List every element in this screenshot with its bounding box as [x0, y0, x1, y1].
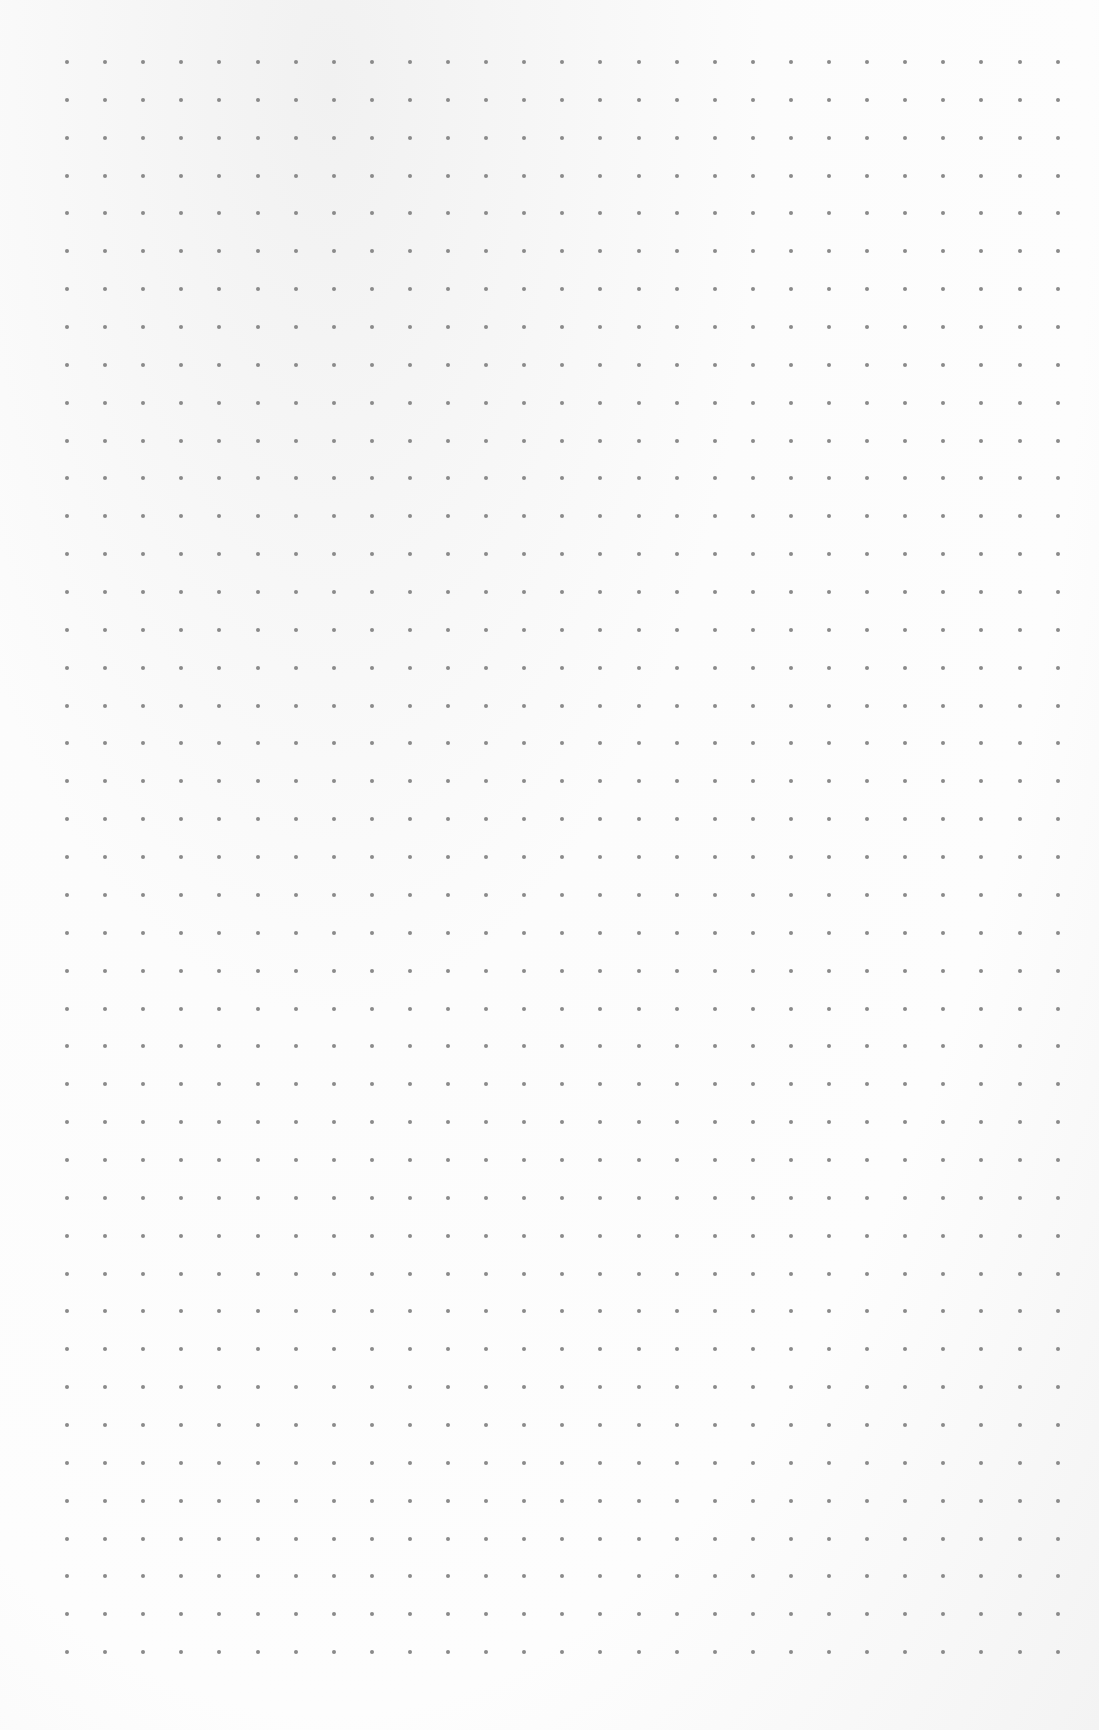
grid-dot — [903, 1007, 907, 1011]
grid-dot — [789, 1574, 793, 1578]
grid-dot — [903, 704, 907, 708]
grid-dot — [560, 174, 564, 178]
grid-dot — [522, 1082, 526, 1086]
grid-dot — [751, 1120, 755, 1124]
grid-dot — [332, 476, 336, 480]
grid-dot — [294, 1537, 298, 1541]
grid-dot — [103, 325, 107, 329]
grid-dot — [141, 628, 145, 632]
grid-dot — [675, 1196, 679, 1200]
grid-dot — [65, 174, 69, 178]
grid-dot — [751, 741, 755, 745]
grid-dot — [217, 476, 221, 480]
grid-dot — [751, 136, 755, 140]
grid-dot — [446, 514, 450, 518]
grid-dot — [827, 514, 831, 518]
grid-dot — [675, 363, 679, 367]
grid-dot — [675, 1461, 679, 1465]
grid-dot — [941, 287, 945, 291]
grid-dot — [751, 174, 755, 178]
grid-dot — [751, 1044, 755, 1048]
grid-dot — [446, 287, 450, 291]
grid-dot — [294, 98, 298, 102]
grid-dot — [637, 174, 641, 178]
grid-dot — [294, 1650, 298, 1654]
grid-dot — [522, 741, 526, 745]
grid-dot — [941, 1272, 945, 1276]
grid-dot — [370, 817, 374, 821]
grid-dot — [446, 1347, 450, 1351]
grid-dot — [941, 1158, 945, 1162]
grid-dot — [789, 401, 793, 405]
grid-dot — [1018, 1537, 1022, 1541]
grid-dot — [941, 1234, 945, 1238]
grid-dot — [332, 1044, 336, 1048]
grid-dot — [217, 628, 221, 632]
grid-dot — [141, 1537, 145, 1541]
grid-dot — [1056, 287, 1060, 291]
grid-dot — [484, 1385, 488, 1389]
grid-dot — [713, 1423, 717, 1427]
grid-dot — [637, 1499, 641, 1503]
grid-dot — [637, 817, 641, 821]
grid-dot — [903, 514, 907, 518]
grid-dot — [103, 249, 107, 253]
grid-dot — [179, 1574, 183, 1578]
grid-dot — [598, 514, 602, 518]
grid-dot — [713, 98, 717, 102]
grid-dot — [979, 590, 983, 594]
grid-dot — [179, 666, 183, 670]
grid-dot — [751, 666, 755, 670]
grid-dot — [865, 249, 869, 253]
grid-dot — [675, 439, 679, 443]
grid-dot — [65, 60, 69, 64]
grid-dot — [675, 779, 679, 783]
grid-dot — [484, 1272, 488, 1276]
grid-dot — [637, 363, 641, 367]
grid-dot — [1056, 1272, 1060, 1276]
grid-dot — [370, 211, 374, 215]
grid-dot — [789, 1158, 793, 1162]
grid-dot — [979, 1347, 983, 1351]
grid-dot — [179, 704, 183, 708]
grid-dot — [179, 1120, 183, 1124]
grid-dot — [294, 1158, 298, 1162]
grid-dot — [903, 363, 907, 367]
grid-dot — [560, 704, 564, 708]
grid-dot — [941, 969, 945, 973]
grid-dot — [865, 741, 869, 745]
grid-dot — [522, 855, 526, 859]
grid-dot — [408, 931, 412, 935]
grid-dot — [217, 1120, 221, 1124]
grid-dot — [522, 704, 526, 708]
grid-dot — [484, 1650, 488, 1654]
grid-dot — [789, 1385, 793, 1389]
grid-dot — [446, 1082, 450, 1086]
grid-dot — [217, 1234, 221, 1238]
grid-dot — [789, 931, 793, 935]
grid-dot — [637, 1196, 641, 1200]
grid-dot — [217, 1461, 221, 1465]
grid-dot — [370, 1044, 374, 1048]
grid-dot — [65, 325, 69, 329]
grid-dot — [256, 249, 260, 253]
grid-dot — [256, 1423, 260, 1427]
grid-dot — [560, 1423, 564, 1427]
grid-dot — [675, 514, 679, 518]
grid-dot — [65, 1347, 69, 1351]
grid-dot — [522, 1537, 526, 1541]
grid-dot — [903, 855, 907, 859]
grid-dot — [103, 1499, 107, 1503]
grid-dot — [141, 1309, 145, 1313]
grid-dot — [865, 98, 869, 102]
grid-dot — [332, 1082, 336, 1086]
grid-dot — [179, 514, 183, 518]
grid-dot — [751, 401, 755, 405]
grid-dot — [522, 1574, 526, 1578]
grid-dot — [827, 1612, 831, 1616]
grid-dot — [484, 325, 488, 329]
grid-dot — [598, 855, 602, 859]
grid-dot — [675, 287, 679, 291]
grid-dot — [103, 174, 107, 178]
grid-dot — [1056, 931, 1060, 935]
